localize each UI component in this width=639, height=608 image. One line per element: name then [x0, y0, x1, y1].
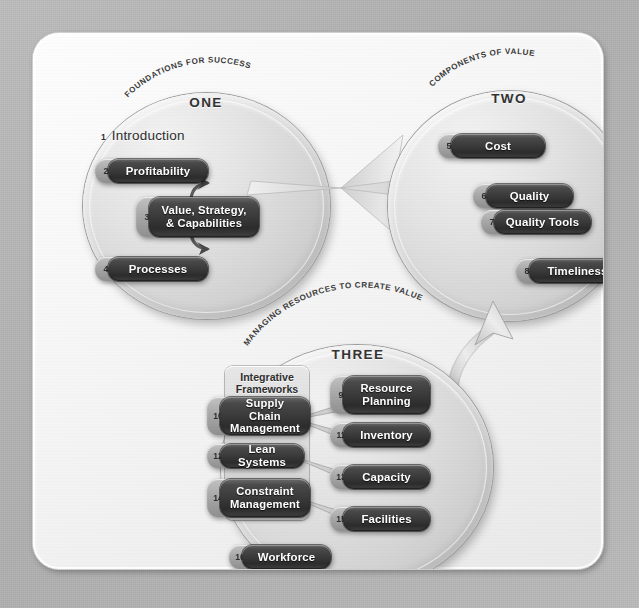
pill-10-label: Supply Chain Management: [220, 397, 310, 435]
section-one-caption-text: FOUNDATIONS FOR SUCCESS: [123, 55, 252, 99]
backing-panel-label: Integrative Frameworks: [225, 371, 309, 395]
pill-7-quality-tools[interactable]: 7 Quality Tools: [481, 210, 591, 234]
pill-12-label: Lean Systems: [220, 444, 304, 468]
pill-14-label: Constraint Management: [220, 479, 310, 517]
section-three-roman: THREE: [303, 347, 413, 362]
pill-2-profitability[interactable]: 2 Profitability: [95, 159, 208, 183]
entry-introduction-label: Introduction: [112, 128, 185, 143]
pill-10-supply-chain-management[interactable]: 10 Supply Chain Management: [207, 397, 304, 435]
pill-6-quality[interactable]: 6 Quality: [473, 184, 573, 208]
pill-16-label: Workforce: [242, 545, 331, 569]
pill-11-label: Inventory: [343, 423, 430, 447]
pill-4-processes[interactable]: 4 Processes: [95, 257, 208, 281]
pill-5-cost[interactable]: 5 Cost: [438, 134, 545, 158]
pill-9-resource-planning[interactable]: 9 Resource Planning: [330, 376, 430, 414]
pill-8-timeliness[interactable]: 8 Timeliness: [516, 259, 603, 283]
pill-8-label: Timeliness: [529, 259, 603, 283]
entry-introduction-number: 1: [101, 132, 106, 142]
pill-3-value-strategy-capabilities[interactable]: 3 Value, Strategy, & Capabilities: [136, 197, 259, 237]
section-one-roman: ONE: [151, 95, 261, 110]
pill-13-label: Capacity: [343, 465, 430, 489]
pill-4-label: Processes: [108, 257, 208, 281]
pill-13-capacity[interactable]: 13 Capacity: [330, 465, 430, 489]
pill-16-workforce[interactable]: 16 Workforce: [229, 545, 331, 569]
pill-15-facilities[interactable]: 15 Facilities: [330, 507, 430, 531]
pill-7-label: Quality Tools: [494, 210, 591, 234]
pill-2-label: Profitability: [108, 159, 208, 183]
pill-5-label: Cost: [451, 134, 545, 158]
diagram-stage: FOUNDATIONS FOR SUCCESS ONE 1 Introducti…: [0, 0, 639, 608]
section-two-roman: TWO: [454, 91, 564, 106]
pill-3-label: Value, Strategy, & Capabilities: [149, 197, 259, 237]
page-panel: FOUNDATIONS FOR SUCCESS ONE 1 Introducti…: [33, 33, 603, 569]
entry-introduction[interactable]: 1 Introduction: [101, 128, 185, 143]
svg-text:FOUNDATIONS FOR SUCCESS: FOUNDATIONS FOR SUCCESS: [123, 55, 252, 99]
section-two-caption-text: COMPONENTS OF VALUE: [427, 47, 536, 89]
svg-text:COMPONENTS OF VALUE: COMPONENTS OF VALUE: [427, 47, 536, 89]
pill-15-label: Facilities: [343, 507, 430, 531]
pill-6-label: Quality: [486, 184, 573, 208]
pill-14-constraint-management[interactable]: 14 Constraint Management: [207, 479, 304, 517]
pill-9-label: Resource Planning: [343, 376, 430, 414]
pill-11-inventory[interactable]: 11 Inventory: [330, 423, 430, 447]
pill-12-lean-systems[interactable]: 12 Lean Systems: [207, 444, 304, 468]
